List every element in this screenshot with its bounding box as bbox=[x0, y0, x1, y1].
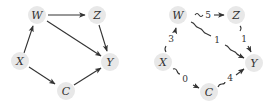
node-w: W bbox=[169, 6, 187, 24]
edge-c-y-head bbox=[236, 69, 244, 75]
edge-w-y-head bbox=[225, 45, 244, 58]
edge-z-y bbox=[99, 25, 107, 51]
edge-z-y bbox=[240, 26, 241, 31]
edge-c-y bbox=[218, 82, 225, 87]
edge-x-c bbox=[173, 69, 180, 74]
node-x: X bbox=[11, 52, 29, 70]
edge-c-y bbox=[74, 68, 101, 85]
node-c-label: C bbox=[205, 86, 214, 99]
node-x-label: X bbox=[15, 55, 25, 68]
node-c: C bbox=[200, 83, 218, 101]
node-z: Z bbox=[88, 6, 106, 24]
edge-x-c-head bbox=[193, 85, 199, 88]
node-w: W bbox=[28, 6, 46, 24]
causal-dag: W Z X Y C bbox=[11, 6, 119, 100]
edge-w-z bbox=[195, 14, 203, 17]
edge-x-w-head bbox=[175, 28, 176, 32]
edge-w-y bbox=[191, 22, 211, 36]
edge-c-y-weight: 4 bbox=[227, 73, 233, 83]
node-z-label: Z bbox=[231, 9, 240, 22]
edge-x-c bbox=[29, 67, 55, 84]
node-y: Y bbox=[101, 53, 119, 71]
edge-x-w bbox=[165, 46, 166, 52]
node-z: Z bbox=[227, 6, 245, 24]
edge-w-y-weight: 1 bbox=[214, 35, 220, 45]
node-x: X bbox=[154, 53, 172, 71]
node-w-label: W bbox=[172, 9, 185, 22]
edge-z-y-weight: 1 bbox=[241, 34, 247, 44]
edge-x-w-weight: 3 bbox=[168, 34, 174, 44]
node-x-label: X bbox=[158, 56, 168, 69]
edge-w-y bbox=[47, 21, 101, 56]
edge-z-y-head bbox=[248, 46, 251, 52]
node-c-label: C bbox=[62, 85, 71, 98]
edge-x-w bbox=[24, 26, 33, 53]
edge-w-z-weight: 5 bbox=[205, 10, 211, 20]
edge-x-c-weight: 0 bbox=[182, 74, 188, 84]
node-z-label: Z bbox=[92, 9, 101, 22]
node-c: C bbox=[57, 82, 75, 100]
weighted-path-graph: 3 5 1 1 0 4 W Z X bbox=[154, 6, 263, 101]
node-y: Y bbox=[245, 54, 263, 72]
node-w-label: W bbox=[31, 9, 44, 22]
